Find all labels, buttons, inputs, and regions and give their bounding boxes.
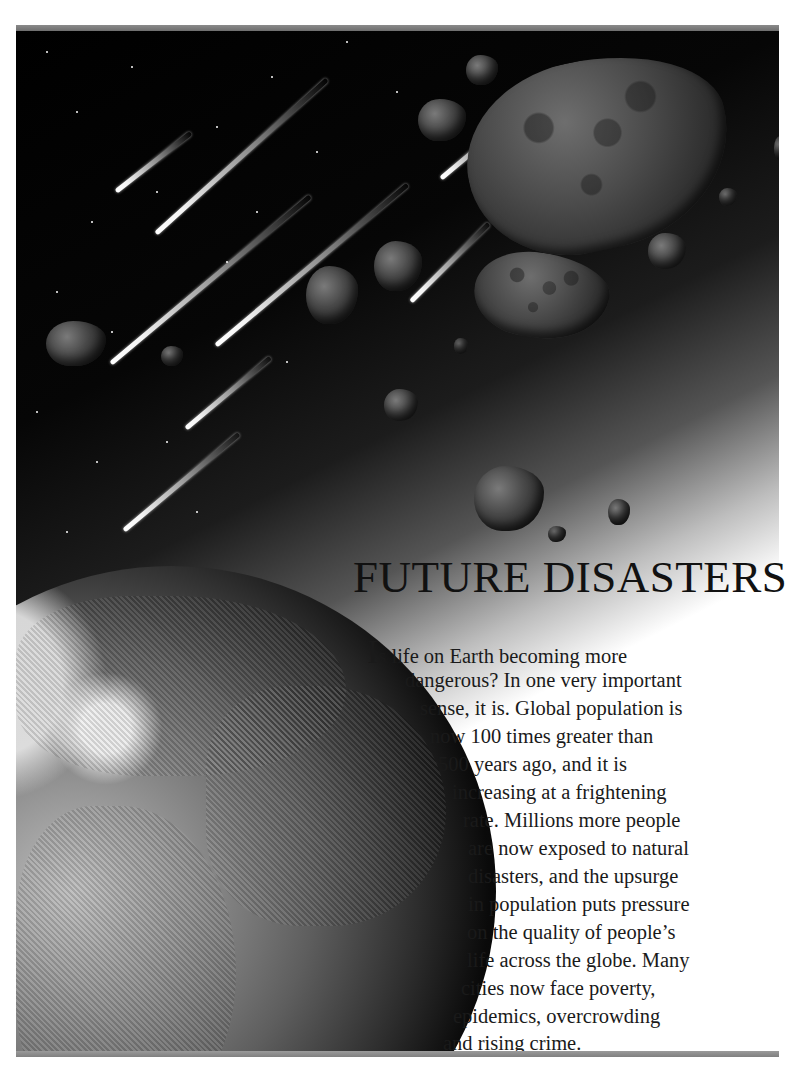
star bbox=[56, 291, 58, 293]
star bbox=[76, 111, 78, 113]
drop-cap: I bbox=[367, 633, 378, 670]
body-line: dangerous? In one very important bbox=[405, 667, 682, 693]
body-line: increasing at a frightening bbox=[452, 779, 667, 805]
star bbox=[131, 66, 133, 68]
landmass-asia bbox=[206, 686, 446, 926]
body-line: 500 years ago, and it is bbox=[438, 751, 627, 777]
star bbox=[36, 411, 38, 413]
body-line: Is life on Earth becoming more bbox=[367, 639, 627, 669]
star bbox=[96, 461, 98, 463]
star bbox=[316, 151, 318, 153]
body-line: in population puts pressure bbox=[468, 891, 690, 917]
body-line: cities now face poverty, bbox=[461, 975, 655, 1001]
page-title: FUTURE DISASTERS bbox=[353, 551, 787, 603]
star bbox=[91, 221, 93, 223]
star bbox=[216, 126, 218, 128]
star bbox=[346, 41, 348, 43]
star bbox=[286, 361, 288, 363]
star bbox=[396, 91, 398, 93]
star bbox=[66, 531, 68, 533]
star bbox=[196, 511, 198, 513]
star bbox=[111, 331, 113, 333]
star bbox=[46, 51, 48, 53]
star bbox=[256, 211, 258, 213]
body-line: sense, it is. Global population is bbox=[420, 695, 683, 721]
body-line: on the quality of people’s bbox=[467, 919, 675, 945]
star bbox=[156, 191, 158, 193]
asteroid bbox=[774, 136, 779, 160]
body-line: life across the globe. Many bbox=[467, 947, 690, 973]
landmass-africa bbox=[16, 806, 236, 1051]
body-line: disasters, and the upsurge bbox=[468, 863, 678, 889]
bottom-rule bbox=[16, 1051, 779, 1057]
body-line: are now exposed to natural bbox=[468, 835, 689, 861]
body-line: now 100 times greater than bbox=[430, 723, 653, 749]
star bbox=[166, 441, 168, 443]
body-line: rate. Millions more people bbox=[463, 807, 680, 833]
star bbox=[271, 76, 273, 78]
body-line: epidemics, overcrowding bbox=[453, 1003, 660, 1029]
